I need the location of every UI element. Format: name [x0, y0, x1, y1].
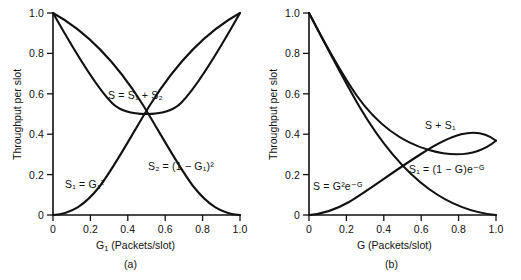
- y-tick-label-b-1: 0.2: [268, 169, 300, 181]
- y-tick-label-a-0: 0: [12, 209, 44, 221]
- x-axis-title-a: G1 (Packets/slot): [96, 239, 175, 253]
- x-axis-symbol-a: G: [96, 239, 104, 251]
- panel-caption-b: (b): [261, 258, 521, 270]
- chart-panel-a: 0 0.2 0.4 0.6 0.8 1.0 0 0.2 0.4 0.6 0.8 …: [0, 0, 261, 280]
- x-axis-symbol-sub-a: 1: [104, 244, 108, 253]
- curve-label-a-s2: S₂ = (1 − G₁)²: [148, 160, 214, 172]
- x-axis-units-a: (Packets/slot): [111, 239, 175, 251]
- x-tick-label-a-5: 1.0: [225, 223, 255, 235]
- x-tick-label-b-3: 0.6: [406, 223, 436, 235]
- x-axis-symbol-b: G: [357, 239, 365, 251]
- y-tick-label-b-5: 1.0: [268, 7, 300, 19]
- y-tick-label-a-5: 1.0: [12, 7, 44, 19]
- x-tick-label-a-4: 0.8: [188, 223, 218, 235]
- x-tick-label-b-0: 0: [294, 223, 324, 235]
- x-tick-label-a-0: 0: [38, 223, 68, 235]
- y-axis-title-a: Throughput per slot: [11, 69, 23, 160]
- x-tick-label-a-2: 0.4: [113, 223, 143, 235]
- curve-label-a-sum: S = S₁ + S₂: [108, 89, 163, 101]
- x-tick-label-a-1: 0.2: [75, 223, 105, 235]
- curve-label-a-s1: S₁ = G₁²: [65, 178, 104, 190]
- x-tick-label-b-5: 1.0: [481, 223, 511, 235]
- x-ticks-b: [309, 215, 496, 221]
- figure-container: 0 0.2 0.4 0.6 0.8 1.0 0 0.2 0.4 0.6 0.8 …: [0, 0, 521, 280]
- y-axis-title-b: Throughput per slot: [267, 69, 279, 160]
- y-tick-label-b-0: 0: [268, 209, 300, 221]
- x-ticks-a: [53, 215, 240, 221]
- x-axis-title-b: G (Packets/slot): [357, 239, 432, 251]
- x-tick-label-a-3: 0.6: [150, 223, 180, 235]
- y-ticks-a: [47, 13, 53, 215]
- x-axis-units-b: (Packets/slot): [368, 239, 432, 251]
- x-tick-label-b-2: 0.4: [369, 223, 399, 235]
- y-ticks-b: [303, 13, 309, 215]
- curve-label-b-s1: S₁ = (1 − G)e⁻ᴳ: [409, 163, 485, 175]
- x-tick-label-b-4: 0.8: [444, 223, 474, 235]
- chart-panel-b: 0 0.2 0.4 0.6 0.8 1.0 0 0.2 0.4 0.6 0.8 …: [261, 0, 521, 280]
- y-tick-label-a-1: 0.2: [12, 169, 44, 181]
- y-tick-label-b-4: 0.8: [268, 47, 300, 59]
- x-tick-label-b-1: 0.2: [331, 223, 361, 235]
- plot-b-svg: [261, 0, 521, 280]
- curve-label-b-s: S = G²e⁻ᴳ: [313, 180, 362, 192]
- y-tick-label-a-4: 0.8: [12, 47, 44, 59]
- curve-label-b-sum: S + S₁: [425, 119, 456, 131]
- panel-caption-a: (a): [0, 258, 261, 270]
